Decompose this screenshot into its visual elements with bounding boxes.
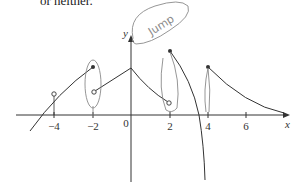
origin-label: 0: [123, 117, 129, 129]
tick-label-4: 4: [205, 120, 211, 132]
tick-label-neg4: −4: [48, 120, 60, 132]
open-point-2: [167, 101, 171, 105]
curve-segment-1: [30, 67, 93, 131]
open-point-neg2: [92, 90, 96, 94]
pencil-annotations: [85, 2, 210, 116]
x-axis-label: x: [284, 118, 290, 130]
tick-label-6: 6: [243, 120, 249, 132]
open-point-neg4: [52, 92, 56, 96]
axes: −4 −2 0 2 4 6 x y: [16, 27, 290, 182]
y-axis-label: y: [122, 27, 128, 39]
function-graph: −4 −2 0 2 4 6 x y Jump: [0, 0, 298, 191]
tick-label-neg2: −2: [87, 120, 99, 132]
curve-segment-2: [95, 68, 131, 91]
curve-segment-5: [208, 67, 284, 113]
filled-point-neg2: [91, 65, 95, 69]
jump-annotation-text: Jump: [145, 12, 176, 38]
loop-annotation-4: [205, 68, 210, 112]
tick-label-2: 2: [167, 120, 173, 132]
